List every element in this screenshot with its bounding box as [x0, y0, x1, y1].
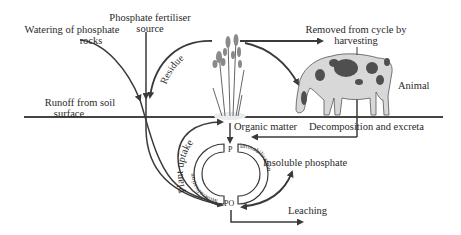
plant-to-animal-arrow [245, 43, 298, 84]
fertiliser-label-line1: Phosphate fertiliser [100, 12, 200, 23]
animal-label: Animal [398, 80, 430, 91]
p-label: P [228, 145, 233, 154]
fertiliser-label: Phosphate fertiliser source [100, 12, 200, 34]
grass-plant-illustration [213, 34, 247, 120]
cow-illustration [296, 54, 392, 115]
decomposition-label: Decomposition and excreta [309, 121, 424, 132]
organic-matter-label: Organic matter [234, 121, 297, 132]
harvesting-label-line1: Removed from cycle by [300, 24, 412, 35]
fertiliser-label-line2: source [100, 23, 200, 34]
residue-arrow [150, 41, 212, 97]
runoff-label: Runoff from soil surface [30, 97, 130, 119]
watering-arrow [80, 40, 140, 100]
residue-label: Residue [158, 52, 186, 86]
harvesting-label-line2: harvesting [300, 35, 412, 46]
po-label: PO [224, 199, 234, 208]
immobilisation-band [238, 144, 268, 204]
phosphorus-cycle-diagram: Mineralisation Immobilisation Plant upta… [0, 0, 461, 235]
runoff-label-line2: surface [30, 108, 130, 119]
insoluble-phosphate-label: Insoluble phosphate [263, 157, 347, 168]
runoff-label-line1: Runoff from soil [30, 97, 130, 108]
harvesting-label: Removed from cycle by harvesting [300, 24, 412, 46]
watering-label-line2: rocks [16, 35, 128, 46]
leaching-label: Leaching [288, 205, 327, 216]
